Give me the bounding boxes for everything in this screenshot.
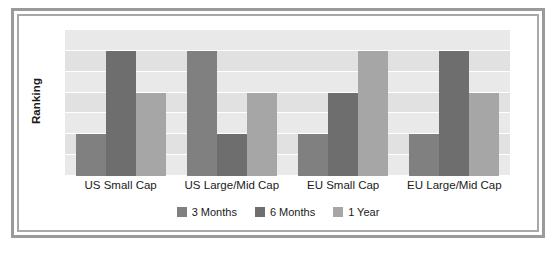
bar-group [288, 30, 399, 176]
x-tick-label: US Large/Mid Cap [176, 179, 287, 191]
x-tick-label: EU Small Cap [288, 179, 399, 191]
bar[interactable] [409, 134, 439, 176]
bar-group [176, 30, 287, 176]
bar[interactable] [298, 134, 328, 176]
bar[interactable] [106, 51, 136, 176]
plot-area [65, 30, 510, 176]
legend-label: 3 Months [192, 206, 237, 218]
bar[interactable] [247, 93, 277, 176]
bar[interactable] [217, 134, 247, 176]
bar-group [65, 30, 176, 176]
bar[interactable] [358, 51, 388, 176]
chart-inner-frame: Ranking US Small CapUS Large/Mid CapEU S… [17, 14, 539, 232]
y-axis-title-label: Ranking [30, 78, 42, 124]
bar-group [399, 30, 510, 176]
legend-label: 1 Year [348, 206, 379, 218]
x-tick-label: US Small Cap [65, 179, 176, 191]
chart-canvas: Ranking US Small CapUS Large/Mid CapEU S… [19, 16, 537, 230]
legend-swatch-icon [177, 207, 187, 217]
legend-label: 6 Months [270, 206, 315, 218]
x-axis-labels: US Small CapUS Large/Mid CapEU Small Cap… [65, 179, 510, 191]
bar[interactable] [76, 134, 106, 176]
chart-legend: 3 Months6 Months1 Year [19, 206, 537, 218]
bar[interactable] [136, 93, 166, 176]
bar[interactable] [439, 51, 469, 176]
y-axis-title: Ranking [25, 46, 47, 156]
legend-swatch-icon [333, 207, 343, 217]
bar[interactable] [328, 93, 358, 176]
legend-item[interactable]: 6 Months [255, 206, 315, 218]
bar[interactable] [469, 93, 499, 176]
legend-item[interactable]: 3 Months [177, 206, 237, 218]
legend-swatch-icon [255, 207, 265, 217]
bars-layer [65, 30, 510, 176]
legend-item[interactable]: 1 Year [333, 206, 379, 218]
x-tick-label: EU Large/Mid Cap [399, 179, 510, 191]
bar[interactable] [187, 51, 217, 176]
chart-outer-frame: Ranking US Small CapUS Large/Mid CapEU S… [11, 8, 545, 238]
chart-screenshot: Ranking US Small CapUS Large/Mid CapEU S… [0, 0, 558, 253]
